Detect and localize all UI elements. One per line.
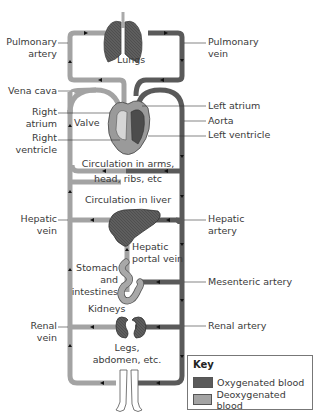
label-left-atrium: Left atrium [208, 100, 260, 112]
label-circulation-liver: Circulation in liver [76, 194, 180, 206]
label-stomach-intestines: Stomach and intestines [70, 262, 118, 298]
legs-icon [116, 370, 142, 412]
legend-title: Key [193, 359, 214, 370]
label-circulation-upper: Circulation in arms, head, ribs, etc [76, 158, 180, 185]
oxygenated-swatch [193, 377, 213, 388]
label-right-ventricle: Right ventricle [0, 132, 57, 156]
label-renal-artery: Renal artery [208, 320, 266, 332]
deoxygenated-swatch [193, 394, 212, 405]
legend-key: Key Oxygenated blood Deoxygenated blood [187, 355, 313, 410]
label-hepatic-vein: Hepatic vein [0, 213, 57, 237]
label-vena-cava: Vena cava [0, 85, 57, 97]
label-lungs: Lungs [117, 54, 145, 66]
label-renal-vein: Renal vein [0, 320, 57, 344]
legend-item-deoxygenated: Deoxygenated blood [193, 393, 312, 406]
label-kidneys: Kidneys [88, 303, 125, 315]
label-hepatic-artery: Hepatic artery [208, 213, 244, 237]
label-right-atrium: Right atrium [0, 106, 57, 130]
label-pulmonary-vein: Pulmonary vein [208, 36, 259, 60]
label-aorta: Aorta [208, 115, 234, 127]
intestines-icon [121, 262, 141, 301]
label-left-ventricle: Left ventricle [208, 129, 270, 141]
label-pulmonary-artery: Pulmonary artery [0, 36, 57, 60]
label-hepatic-portal-vein: Hepatic portal vein [132, 241, 183, 265]
label-mesenteric-artery: Mesenteric artery [208, 276, 292, 288]
kidneys-icon [116, 317, 146, 338]
label-legs-abdomen: Legs, abdomen, etc. [80, 342, 174, 366]
heart-icon [108, 101, 150, 155]
legend-item-oxygenated: Oxygenated blood [193, 376, 304, 389]
label-valve: Valve [74, 117, 100, 129]
